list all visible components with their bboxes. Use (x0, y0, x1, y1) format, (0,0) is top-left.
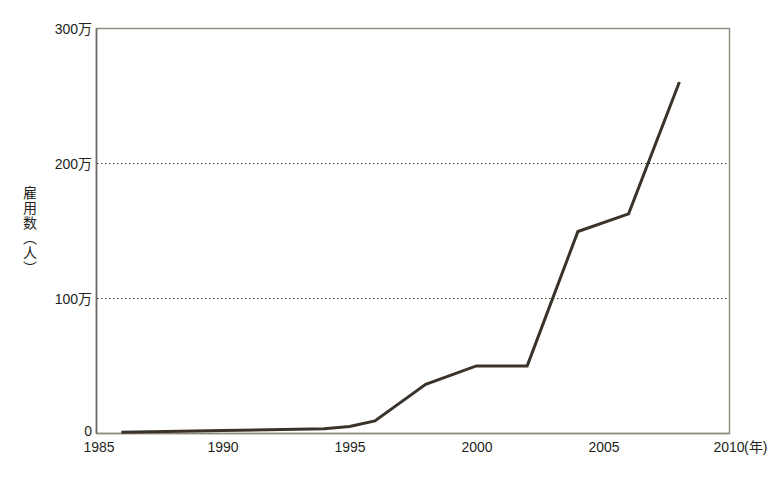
x-tick-label-2000: 2000 (461, 440, 492, 455)
y-axis-title: 雇用数（人） (18, 186, 38, 276)
x-axis-unit-label: (年) (744, 440, 767, 455)
chart-figure: 1985年からの雇用数の推移（人） 300万 200万 100万 0 雇用数（人… (0, 0, 779, 478)
x-tick-label-1985: 1985 (83, 440, 114, 455)
plot-frame (97, 29, 730, 434)
chart-plot-area (0, 0, 779, 478)
x-tick-label-1990: 1990 (207, 440, 238, 455)
x-tick-label-1995: 1995 (334, 440, 365, 455)
x-tick-label-2010: 2010 (713, 440, 744, 455)
x-tick-label-2005: 2005 (588, 440, 619, 455)
